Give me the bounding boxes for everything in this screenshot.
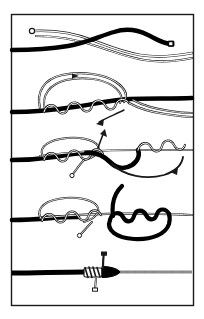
knot-illustration [0,0,204,319]
thick-line-end-cap-hole-panel1 [169,42,172,45]
thin-line-end-cap-panel1 [29,28,34,33]
thick-line-panel5 [12,272,84,273]
knot-diagram-figure: Fishing Line Knot Tying Sequence Five-st… [0,0,204,319]
